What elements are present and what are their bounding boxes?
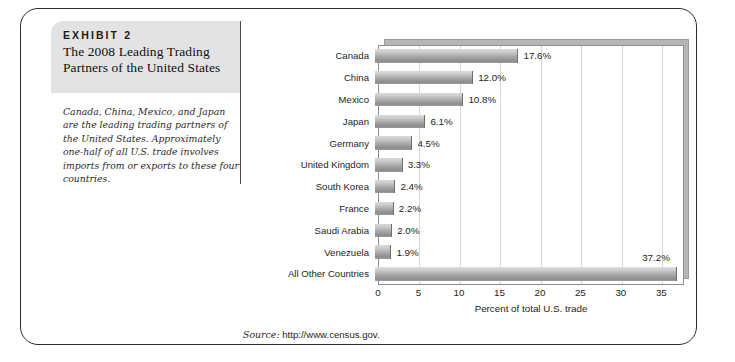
x-tick-label: 20 (534, 287, 545, 298)
exhibit-left-column: EXHIBIT 2 The 2008 Leading Trading Partn… (51, 21, 240, 185)
x-tick-label: 10 (453, 287, 464, 298)
column-divider (240, 21, 241, 184)
bar-value-label: 1.9% (396, 247, 418, 258)
bar-value-label: 2.2% (399, 203, 421, 214)
bar-category-label: Mexico (276, 94, 375, 105)
exhibit-frame: EXHIBIT 2 The 2008 Leading Trading Partn… (20, 8, 697, 345)
bar (375, 267, 677, 281)
exhibit-label: EXHIBIT 2 (63, 29, 230, 42)
bar-row: All Other Countries37.2% (276, 263, 696, 285)
source-line: Source: http://www.census.gov. (243, 329, 380, 340)
bar-row: China12.0% (276, 67, 696, 89)
bar-category-label: United Kingdom (276, 159, 375, 170)
bar-row: Japan6.1% (276, 110, 696, 132)
bar-track: 10.8% (375, 89, 696, 111)
bar-track: 17.6% (375, 45, 696, 67)
bar-value-label: 2.0% (397, 225, 419, 236)
bar-row: Germany4.5% (276, 132, 696, 154)
bar-row: Saudi Arabia2.0% (276, 219, 696, 241)
bar (375, 245, 391, 259)
x-tick-label: 25 (575, 287, 586, 298)
bar (375, 115, 425, 129)
bar-row: France2.2% (276, 198, 696, 220)
bar-track: 2.0% (375, 219, 696, 241)
bar (375, 93, 463, 107)
bar-category-label: South Korea (276, 181, 375, 192)
bar-category-label: Canada (276, 50, 375, 61)
bar-rows: Canada17.6%China12.0%Mexico10.8%Japan6.1… (276, 45, 696, 285)
bar-track: 2.4% (375, 176, 696, 198)
bar-row: Mexico10.8% (276, 89, 696, 111)
bar-value-label: 4.5% (417, 138, 439, 149)
bar-category-label: Venezuela (276, 247, 375, 258)
exhibit-header-box: EXHIBIT 2 The 2008 Leading Trading Partn… (51, 21, 240, 93)
bar (375, 49, 518, 63)
bar-value-label: 3.3% (408, 159, 430, 170)
bar-row: Canada17.6% (276, 45, 696, 67)
bar-category-label: China (276, 72, 375, 83)
bar-value-label: 10.8% (468, 94, 496, 105)
bar-category-label: Germany (276, 138, 375, 149)
bar-track: 2.2% (375, 198, 696, 220)
exhibit-caption: Canada, China, Mexico, and Japan are the… (63, 105, 239, 185)
bar (375, 180, 395, 194)
x-axis-tick-labels: 05101520253035 (276, 287, 696, 301)
bar-value-label: 2.4% (400, 181, 422, 192)
bar (375, 136, 412, 150)
x-tick-label: 30 (615, 287, 626, 298)
x-tick-label: 0 (375, 287, 380, 298)
x-tick-label: 35 (656, 287, 667, 298)
bar-category-label: Japan (276, 116, 375, 127)
bar-chart: Canada17.6%China12.0%Mexico10.8%Japan6.1… (276, 35, 696, 315)
bar-row: South Korea2.4% (276, 176, 696, 198)
exhibit-title: The 2008 Leading Trading Partners of the… (63, 44, 230, 75)
bar-track: 3.3% (375, 154, 696, 176)
bar-value-label: 17.6% (523, 50, 551, 61)
bar-category-label: Saudi Arabia (276, 225, 375, 236)
bar-row: United Kingdom3.3% (276, 154, 696, 176)
x-axis-title: Percent of total U.S. trade (378, 303, 684, 314)
bar-track: 4.5% (375, 132, 696, 154)
bar (375, 224, 392, 238)
bar-value-label: 37.2% (642, 252, 670, 263)
bar-value-label: 6.1% (430, 116, 452, 127)
x-tick-label: 5 (416, 287, 421, 298)
bar (375, 202, 394, 216)
bar-category-label: France (276, 203, 375, 214)
bar (375, 71, 473, 85)
bar-category-label: All Other Countries (276, 268, 375, 279)
bar-track: 37.2% (375, 263, 696, 285)
bar (375, 158, 403, 172)
bar-value-label: 12.0% (478, 72, 506, 83)
bar-track: 12.0% (375, 67, 696, 89)
source-url: http://www.census.gov. (282, 329, 379, 340)
x-tick-label: 15 (494, 287, 505, 298)
bar-track: 6.1% (375, 110, 696, 132)
source-prefix: Source: (243, 329, 280, 340)
bar-row: Venezuela1.9% (276, 241, 696, 263)
